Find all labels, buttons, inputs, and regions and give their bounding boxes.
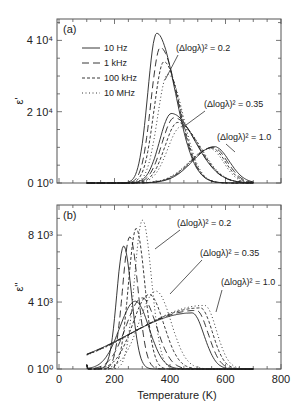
y-tick-label: 0 10⁰ xyxy=(28,363,54,375)
curve-1-khz xyxy=(87,118,254,183)
panel-b xyxy=(57,205,281,369)
curve-1-khz xyxy=(87,298,254,369)
plot-frame xyxy=(57,205,281,369)
y-tick-label: 4 10³ xyxy=(28,296,53,308)
annotation-leader xyxy=(170,260,202,294)
panel-label: (a) xyxy=(63,23,76,35)
x-tick-label: 800 xyxy=(272,373,290,385)
curve-100-khz xyxy=(87,148,254,183)
curve-10-hz xyxy=(87,246,254,369)
annotation-label: (Δlogλ)² = 1.0 xyxy=(221,277,275,287)
annotation-leader xyxy=(216,290,222,312)
annotation-label: (Δlogλ)² = 0.35 xyxy=(200,248,259,258)
annotation-leader xyxy=(186,111,205,125)
x-tick-label: 600 xyxy=(216,373,234,385)
legend-label: 10 Hz xyxy=(104,43,128,53)
annotation-leader xyxy=(226,144,235,152)
x-axis-label: Temperature (K) xyxy=(137,389,216,401)
annotation-label: (Δlogλ)² = 0.2 xyxy=(177,218,231,228)
annotation-leader xyxy=(155,230,180,249)
curve-100-khz xyxy=(87,295,254,370)
x-tick-label: 200 xyxy=(105,373,123,385)
x-tick-label: 400 xyxy=(161,373,179,385)
legend-label: 1 kHz xyxy=(104,58,128,68)
curve-10-mhz xyxy=(87,291,254,369)
legend-label: 10 MHz xyxy=(104,88,136,98)
curve-1-khz xyxy=(87,147,254,183)
y-tick-label: 8 10³ xyxy=(28,229,53,241)
annotation-label: (Δlogλ)² = 0.35 xyxy=(204,99,263,109)
annotation-label: (Δlogλ)² = 0.2 xyxy=(176,43,230,53)
annotation-label: (Δlogλ)² = 1.0 xyxy=(217,132,271,142)
x-tick-label: 0 xyxy=(56,373,62,385)
y-tick-label: 2 10⁴ xyxy=(27,106,53,118)
curve-10-hz xyxy=(87,114,254,184)
y-axis-label: ε' xyxy=(13,97,25,104)
panel-label: (b) xyxy=(63,209,76,221)
annotation-leader xyxy=(165,55,178,80)
y-axis-label: ε'' xyxy=(13,282,25,291)
y-tick-label: 4 10⁴ xyxy=(27,34,53,46)
chart: 0 10⁰2 10⁴4 10⁴ε'(a)(Δlogλ)² = 0.2(Δlogλ… xyxy=(0,0,306,414)
curve-10-hz xyxy=(87,147,254,183)
legend-label: 100 kHz xyxy=(104,73,138,83)
y-tick-label: 0 10⁰ xyxy=(28,177,54,189)
